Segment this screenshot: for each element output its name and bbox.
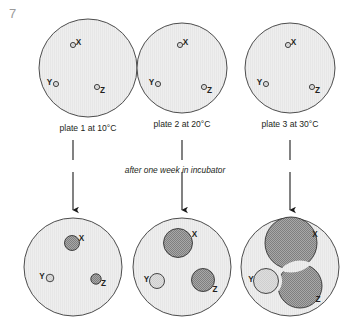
incubation-arrows [73, 140, 290, 210]
figure-canvas: XYZXYZXYZ XYZXYZXYZ [0, 0, 350, 328]
plate-1-after-label-y: Y [39, 272, 45, 281]
plate-2-after-label-z: Z [212, 285, 217, 294]
plate-1-before-colony-z [94, 84, 99, 89]
plate-2-before-colony-z [201, 84, 206, 89]
plate-1-before-dish [39, 19, 137, 117]
plate-3-before-label-x: X [291, 38, 297, 47]
plate-2-after-colony-x [164, 229, 193, 258]
plate-1-after-colony-x [65, 236, 80, 251]
plate-1-after-colony-z [91, 274, 101, 284]
plate-3-after-label-z: Z [315, 295, 320, 304]
plate-1-after-colony-y [46, 274, 54, 282]
plate-3-after-label-y: Y [248, 275, 254, 284]
plate-1-after-label-x: X [79, 234, 85, 243]
plate-1-before-label-y: Y [47, 78, 53, 87]
plate-3-before-label-y: Y [257, 78, 263, 87]
plate-2-after-colony-y [150, 274, 165, 289]
plate-3-before-colony-z [309, 84, 314, 89]
plate-2-after-colony-z [192, 269, 215, 292]
plate-2-after-label-x: X [192, 230, 198, 239]
plate-1-before-colony-y [53, 81, 58, 86]
plate-1-before-label-z: Z [100, 86, 105, 95]
plate-1-after-dish [24, 218, 122, 316]
plate-3-before-dish [245, 23, 335, 113]
plate-1-after-label-z: Z [101, 279, 106, 288]
incubation-note: after one week in incubator [0, 165, 350, 175]
plate-2-before-label-x: X [183, 38, 189, 47]
plate-3-before-caption: plate 3 at 30°C [230, 119, 350, 129]
plate-3-before-colony-y [263, 81, 268, 86]
plate-1-before-label-x: X [76, 38, 82, 47]
top-row-plates: XYZXYZXYZ [39, 19, 335, 117]
plate-2-before-colony-y [155, 81, 160, 86]
plate-3-before-label-z: Z [315, 86, 320, 95]
plate-2-before-dish [137, 23, 227, 113]
plate-2-before-label-y: Y [149, 78, 155, 87]
plate-3-after-colony-x [265, 217, 317, 269]
plate-2-before-caption: plate 2 at 20°C [122, 119, 242, 129]
petri-dish-growth-figure: 7 XYZXYZXYZ XYZXYZXYZ plate 1 [0, 0, 350, 328]
plate-2-before-label-z: Z [207, 86, 212, 95]
plate-3-after-colony-y [254, 269, 279, 294]
plate-2-after-label-y: Y [144, 275, 150, 284]
bottom-row-plates: XYZXYZXYZ [24, 217, 339, 316]
plate-3-after-label-x: X [312, 230, 318, 239]
